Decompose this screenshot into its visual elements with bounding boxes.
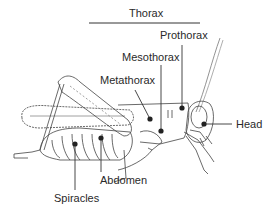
- grasshopper-body: [14, 38, 223, 182]
- spiracles-label: Spiracles: [54, 192, 99, 204]
- abdomen-label: Abdomen: [100, 174, 147, 186]
- head-label: Head: [236, 118, 262, 130]
- leader-lines: [75, 45, 232, 190]
- mesothorax-dot: [158, 128, 163, 133]
- abdomen-dot: [98, 135, 103, 140]
- head-dot: [201, 121, 206, 126]
- metathorax-label: Metathorax: [100, 74, 155, 86]
- prothorax-label: Prothorax: [160, 29, 208, 41]
- mesothorax-label: Mesothorax: [122, 51, 179, 63]
- prothorax-dot: [179, 105, 184, 110]
- thorax-label: Thorax: [129, 7, 163, 19]
- spiracles-dot: [72, 141, 77, 146]
- metathorax-dot: [147, 116, 152, 121]
